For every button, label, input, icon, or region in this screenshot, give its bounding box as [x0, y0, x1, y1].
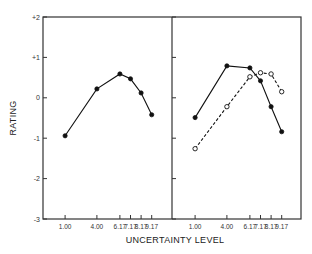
y-axis-title: RATING: [8, 100, 18, 135]
right-open-data-point: [280, 90, 284, 94]
right-filled-data-point: [258, 79, 262, 83]
right-open-data-point: [269, 72, 273, 76]
left-filled-data-point: [63, 134, 67, 138]
right-open-series-line: [195, 73, 282, 149]
right-filled-data-point: [193, 115, 197, 119]
y-axis-ticks: +2+10-1-2-3: [32, 14, 176, 223]
x-tick-label: 4.00: [221, 223, 234, 230]
right-open-data-point: [248, 75, 252, 79]
x-tick-label: 4.00: [91, 223, 104, 230]
y-tick-label: +1: [32, 54, 40, 61]
right-filled-data-point: [280, 130, 284, 134]
x-tick-label: 9.17: [145, 223, 158, 230]
y-tick-label: -1: [34, 135, 40, 142]
chart-frame: [43, 17, 301, 219]
right-filled-data-point: [225, 64, 229, 68]
left-filled-series-line: [65, 74, 152, 136]
y-tick-label: +2: [32, 14, 40, 21]
right-filled-data-point: [248, 66, 252, 70]
left-filled-data-point: [118, 72, 122, 76]
x-axis-title: UNCERTAINTY LEVEL: [126, 235, 225, 245]
left-filled-data-point: [150, 113, 154, 117]
x-tick-label: 9.17: [275, 223, 288, 230]
right-open-data-point: [193, 147, 197, 151]
right-open-data-point: [225, 104, 229, 108]
left-filled-data-point: [128, 77, 132, 81]
left-filled-data-point: [95, 87, 99, 91]
y-tick-label: -3: [34, 216, 40, 223]
y-tick-label: 0: [36, 94, 40, 101]
rating-chart: +2+10-1-2-3 1.004.006.177.178.179.171.00…: [0, 0, 312, 254]
right-filled-series-line: [195, 66, 282, 132]
x-tick-label: 1.00: [189, 223, 202, 230]
right-open-data-point: [258, 71, 262, 75]
x-tick-label: 1.00: [59, 223, 72, 230]
y-tick-label: -2: [34, 175, 40, 182]
left-filled-data-point: [139, 91, 143, 95]
x-axis-ticks: 1.004.006.177.178.179.171.004.006.177.17…: [59, 215, 289, 230]
right-filled-data-point: [269, 105, 273, 109]
